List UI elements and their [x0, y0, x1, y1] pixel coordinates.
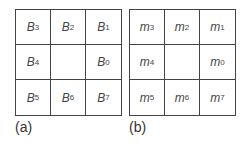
cell-a-8: B7: [86, 80, 121, 115]
cell-b-center: [165, 45, 200, 80]
cell-label: m: [175, 91, 185, 105]
cell-subscript: 6: [185, 93, 189, 102]
cell-subscript: 3: [150, 23, 154, 32]
cell-subscript: 1: [220, 23, 224, 32]
cell-a-7: B6: [51, 80, 86, 115]
cell-subscript: 7: [220, 93, 224, 102]
cell-label: B: [62, 20, 70, 34]
cell-subscript: 7: [105, 93, 109, 102]
cell-subscript: 2: [70, 23, 74, 32]
caption-b: (b): [129, 119, 146, 135]
cell-label: B: [27, 20, 35, 34]
cell-b-0: m3: [130, 10, 165, 45]
cell-label: m: [210, 20, 220, 34]
cell-label: B: [97, 91, 105, 105]
cell-a-center: [51, 45, 86, 80]
cell-label: m: [210, 55, 220, 69]
grid-a: B3 B2 B1 B4 B0 B5 B6 B7: [15, 9, 122, 116]
cell-b-5: m0: [200, 45, 235, 80]
cell-subscript: 0: [105, 58, 109, 67]
cell-label: B: [97, 55, 105, 69]
cell-b-6: m5: [130, 80, 165, 115]
cell-a-1: B2: [51, 10, 86, 45]
cell-label: B: [62, 91, 70, 105]
cell-subscript: 2: [185, 23, 189, 32]
grid-b: m3 m2 m1 m4 m0 m5 m6 m7: [129, 9, 236, 116]
cell-a-6: B5: [16, 80, 51, 115]
cell-a-3: B4: [16, 45, 51, 80]
cell-label: B: [97, 20, 105, 34]
cell-subscript: 4: [35, 58, 39, 67]
cell-label: B: [27, 55, 35, 69]
cell-b-7: m6: [165, 80, 200, 115]
cell-a-5: B0: [86, 45, 121, 80]
cell-label: B: [27, 91, 35, 105]
cell-subscript: 4: [150, 58, 154, 67]
cell-subscript: 0: [220, 58, 224, 67]
cell-subscript: 5: [150, 93, 154, 102]
cell-subscript: 6: [70, 93, 74, 102]
cell-a-2: B1: [86, 10, 121, 45]
cell-b-3: m4: [130, 45, 165, 80]
cell-b-2: m1: [200, 10, 235, 45]
cell-subscript: 3: [35, 23, 39, 32]
cell-label: m: [210, 91, 220, 105]
cell-label: m: [175, 20, 185, 34]
cell-b-8: m7: [200, 80, 235, 115]
cell-b-1: m2: [165, 10, 200, 45]
cell-subscript: 5: [35, 93, 39, 102]
cell-subscript: 1: [105, 23, 109, 32]
cell-label: m: [140, 20, 150, 34]
cell-label: m: [140, 55, 150, 69]
caption-a: (a): [15, 119, 32, 135]
cell-a-0: B3: [16, 10, 51, 45]
cell-label: m: [140, 91, 150, 105]
